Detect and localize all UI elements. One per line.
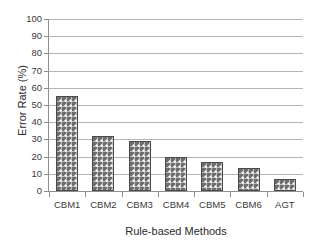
bar-cbm6 bbox=[238, 168, 260, 191]
bar-pattern bbox=[93, 137, 113, 190]
y-tick-label-70: 70 bbox=[16, 66, 42, 76]
gridline-80 bbox=[49, 53, 303, 54]
gridline-50 bbox=[49, 105, 303, 106]
x-tick-label-cbm5: CBM5 bbox=[194, 199, 230, 210]
x-tick-label-cbm4: CBM4 bbox=[158, 199, 194, 210]
y-tick-mark-80 bbox=[44, 53, 49, 54]
y-tick-mark-40 bbox=[44, 122, 49, 123]
gridline-40 bbox=[49, 122, 303, 123]
y-tick-mark-60 bbox=[44, 88, 49, 89]
y-tick-mark-10 bbox=[44, 174, 49, 175]
y-tick-mark-100 bbox=[44, 19, 49, 20]
x-tick-mark-1 bbox=[85, 192, 86, 197]
chart-figure: · · · · Error Rate (%) 01020304050607080… bbox=[0, 0, 312, 248]
bar-cbm4 bbox=[165, 157, 187, 191]
x-tick-mark-0 bbox=[49, 192, 50, 197]
y-tick-mark-90 bbox=[44, 36, 49, 37]
gridline-90 bbox=[49, 36, 303, 37]
y-tick-label-40: 40 bbox=[16, 117, 42, 127]
bar-pattern bbox=[57, 97, 77, 190]
gridline-30 bbox=[49, 139, 303, 140]
y-tick-mark-0 bbox=[44, 191, 49, 192]
x-tick-mark-7 bbox=[303, 192, 304, 197]
x-tick-label-cbm6: CBM6 bbox=[230, 199, 266, 210]
gridline-100 bbox=[49, 19, 303, 20]
gridline-0 bbox=[49, 191, 303, 192]
plot-area bbox=[49, 19, 303, 191]
x-tick-mark-3 bbox=[158, 192, 159, 197]
x-tick-label-agt: AGT bbox=[267, 199, 303, 210]
x-tick-mark-6 bbox=[267, 192, 268, 197]
y-tick-mark-20 bbox=[44, 157, 49, 158]
bar-pattern bbox=[239, 169, 259, 190]
y-tick-label-50: 50 bbox=[16, 100, 42, 110]
y-tick-label-90: 90 bbox=[16, 31, 42, 41]
x-tick-label-cbm2: CBM2 bbox=[85, 199, 121, 210]
x-tick-label-cbm3: CBM3 bbox=[122, 199, 158, 210]
y-tick-label-30: 30 bbox=[16, 134, 42, 144]
y-tick-label-100: 100 bbox=[16, 14, 42, 24]
bar-pattern bbox=[130, 142, 150, 190]
bar-cbm1 bbox=[56, 96, 78, 191]
x-axis-title: Rule-based Methods bbox=[49, 225, 303, 238]
gridline-70 bbox=[49, 71, 303, 72]
x-tick-label-cbm1: CBM1 bbox=[49, 199, 85, 210]
y-tick-label-80: 80 bbox=[16, 48, 42, 58]
bar-cbm2 bbox=[92, 136, 114, 191]
bar-agt bbox=[274, 179, 296, 191]
y-axis-tick-labels: 0102030405060708090100 bbox=[12, 0, 42, 248]
y-tick-label-60: 60 bbox=[16, 83, 42, 93]
x-tick-mark-4 bbox=[194, 192, 195, 197]
y-tick-label-10: 10 bbox=[16, 169, 42, 179]
x-tick-mark-5 bbox=[230, 192, 231, 197]
y-tick-mark-50 bbox=[44, 105, 49, 106]
x-tick-mark-2 bbox=[122, 192, 123, 197]
bar-pattern bbox=[202, 163, 222, 190]
gridline-60 bbox=[49, 88, 303, 89]
bar-pattern bbox=[275, 180, 295, 190]
y-tick-label-20: 20 bbox=[16, 152, 42, 162]
bar-pattern bbox=[166, 158, 186, 190]
bar-cbm3 bbox=[129, 141, 151, 191]
y-tick-mark-70 bbox=[44, 71, 49, 72]
y-tick-label-0: 0 bbox=[16, 186, 42, 196]
y-tick-mark-30 bbox=[44, 139, 49, 140]
bar-cbm5 bbox=[201, 162, 223, 191]
